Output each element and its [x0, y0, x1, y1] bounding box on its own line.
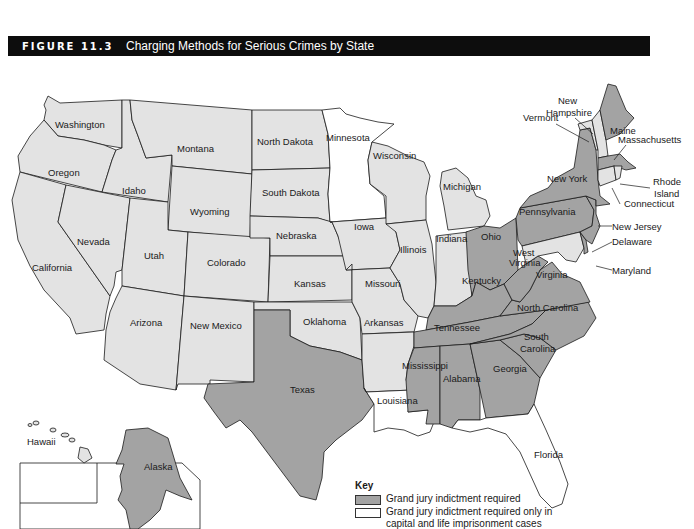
svg-text:Indiana: Indiana: [436, 233, 468, 244]
svg-text:Arkansas: Arkansas: [364, 317, 404, 328]
svg-text:Montana: Montana: [177, 143, 215, 154]
legend-swatch-white: [355, 508, 381, 518]
svg-text:Maryland: Maryland: [612, 265, 651, 276]
svg-text:South Dakota: South Dakota: [262, 187, 320, 198]
svg-text:Virginia: Virginia: [509, 257, 541, 268]
svg-text:Texas: Texas: [290, 384, 315, 395]
map-legend: Key Grand jury indictment required Grand…: [355, 480, 552, 529]
state-wyoming: [168, 166, 252, 238]
svg-text:Washington: Washington: [55, 119, 105, 130]
svg-text:Mississippi: Mississippi: [402, 360, 448, 371]
svg-text:Minnesota: Minnesota: [326, 132, 371, 143]
svg-text:Colorado: Colorado: [207, 257, 246, 268]
state-connecticut: [598, 166, 616, 186]
svg-text:Connecticut: Connecticut: [624, 198, 675, 209]
legend-label: Grand jury indictment required only inca…: [386, 506, 552, 529]
svg-text:Louisiana: Louisiana: [377, 395, 418, 406]
svg-text:Island: Island: [654, 188, 679, 199]
svg-text:New: New: [558, 95, 577, 106]
svg-text:Nebraska: Nebraska: [276, 230, 317, 241]
svg-text:Idaho: Idaho: [122, 185, 146, 196]
us-map: Washington Oregon California Idaho Nevad…: [0, 0, 694, 529]
svg-text:Georgia: Georgia: [493, 363, 528, 374]
svg-text:Oklahoma: Oklahoma: [303, 316, 347, 327]
legend-swatch-dark: [355, 495, 381, 505]
legend-item-capital-only: Grand jury indictment required only inca…: [355, 506, 552, 529]
svg-text:Illinois: Illinois: [400, 244, 427, 255]
svg-text:Wyoming: Wyoming: [190, 206, 230, 217]
svg-text:Oregon: Oregon: [48, 167, 80, 178]
state-michigan: [440, 168, 490, 230]
svg-text:Missouri: Missouri: [365, 278, 400, 289]
svg-text:California: California: [32, 262, 73, 273]
svg-text:Rhode: Rhode: [653, 176, 681, 187]
svg-text:Ohio: Ohio: [481, 231, 501, 242]
svg-text:Carolina: Carolina: [520, 343, 556, 354]
svg-text:Iowa: Iowa: [354, 221, 375, 232]
svg-text:Hawaii: Hawaii: [27, 436, 56, 447]
svg-text:Delaware: Delaware: [612, 236, 652, 247]
svg-text:Alaska: Alaska: [144, 461, 173, 472]
legend-label: Grand jury indictment required: [386, 493, 521, 505]
svg-text:Florida: Florida: [534, 449, 564, 460]
svg-text:Hampshire: Hampshire: [546, 107, 592, 118]
legend-item-required: Grand jury indictment required: [355, 493, 552, 505]
state-new-mexico: [176, 296, 254, 390]
legend-title: Key: [355, 480, 552, 491]
svg-text:North Carolina: North Carolina: [517, 302, 579, 313]
svg-text:North Dakota: North Dakota: [257, 136, 314, 147]
svg-text:Maine: Maine: [610, 125, 636, 136]
svg-text:Utah: Utah: [144, 250, 164, 261]
svg-text:New Jersey: New Jersey: [612, 221, 662, 232]
svg-text:New York: New York: [547, 173, 587, 184]
svg-text:New Mexico: New Mexico: [190, 320, 242, 331]
svg-text:Tennessee: Tennessee: [434, 322, 480, 333]
svg-text:Wisconsin: Wisconsin: [373, 150, 416, 161]
svg-text:Alabama: Alabama: [443, 373, 481, 384]
svg-text:Nevada: Nevada: [77, 236, 110, 247]
svg-text:Michigan: Michigan: [443, 181, 481, 192]
svg-text:Kansas: Kansas: [294, 278, 326, 289]
svg-text:Arizona: Arizona: [130, 317, 163, 328]
svg-text:South: South: [524, 331, 549, 342]
svg-text:Pennsylvania: Pennsylvania: [519, 206, 576, 217]
state-arizona: [104, 286, 184, 390]
svg-text:Kentucky: Kentucky: [462, 275, 501, 286]
svg-text:Virginia: Virginia: [536, 269, 568, 280]
